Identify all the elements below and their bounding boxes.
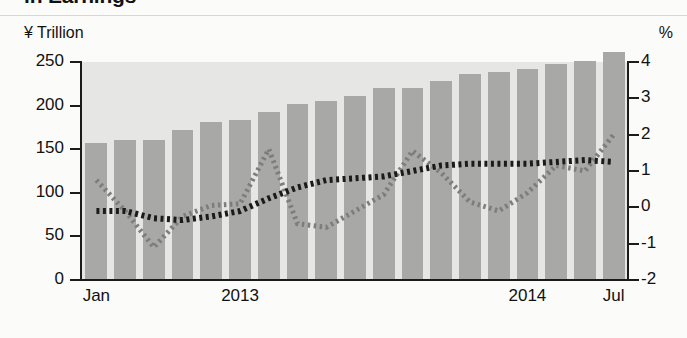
left-axis-tick-label: 0 [6, 269, 64, 289]
black-dotted-line [96, 160, 613, 220]
line-series [82, 44, 628, 280]
right-axis-tick-label: 3 [641, 87, 681, 107]
right-axis-tick [628, 279, 639, 281]
header-divider [0, 15, 687, 16]
right-axis-tick [628, 243, 639, 245]
right-axis-tick-label: 2 [641, 124, 681, 144]
left-axis-tick-label: 250 [6, 51, 64, 71]
right-axis-tick-label: 0 [641, 196, 681, 216]
chart-figure: in Earnings ¥ Trillion % 050100150200250… [0, 0, 687, 338]
left-axis-tick [70, 279, 81, 281]
right-axis-tick-label: 1 [641, 160, 681, 180]
plot-area [82, 62, 628, 280]
left-axis-tick-label: 50 [6, 225, 64, 245]
right-axis-caption: % [659, 24, 673, 42]
right-axis-tick [628, 61, 639, 63]
right-axis-tick-label: 4 [641, 51, 681, 71]
right-axis-tick [628, 170, 639, 172]
x-axis-tick-label: Jul [574, 286, 654, 306]
left-axis-tick-label: 100 [6, 182, 64, 202]
left-axis-tick [70, 192, 81, 194]
x-axis-tick-label: Jan [56, 286, 136, 306]
right-axis-tick-label: -1 [641, 233, 681, 253]
right-axis-tick [628, 206, 639, 208]
page-title: in Earnings [24, 0, 136, 8]
left-axis-tick [70, 148, 81, 150]
left-axis-tick [70, 61, 81, 63]
bottom-axis-line [80, 279, 629, 281]
right-axis-tick [628, 134, 639, 136]
x-axis-tick-label: 2014 [487, 286, 567, 306]
left-axis-tick [70, 105, 81, 107]
left-axis-tick-label: 150 [6, 138, 64, 158]
x-axis-tick-label: 2013 [200, 286, 280, 306]
gray-dotted-line [96, 135, 613, 248]
left-axis-line [80, 61, 82, 281]
left-axis-caption: ¥ Trillion [24, 24, 84, 42]
left-axis-tick-label: 200 [6, 95, 64, 115]
right-axis-tick [628, 97, 639, 99]
left-axis-tick [70, 235, 81, 237]
